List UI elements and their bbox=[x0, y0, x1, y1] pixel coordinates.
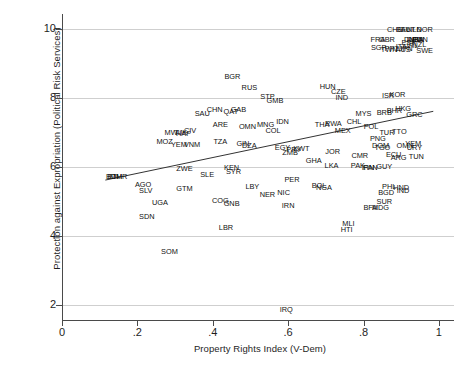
data-point-label: GTM bbox=[176, 186, 192, 193]
data-point-label: SLV bbox=[139, 187, 152, 194]
data-point-label: GMB bbox=[267, 97, 284, 104]
data-point-label: SYR bbox=[226, 168, 241, 175]
y-tick-label: 4 bbox=[34, 229, 56, 241]
data-point-label: CHL bbox=[347, 119, 362, 126]
data-point-label: NGA bbox=[316, 185, 332, 192]
data-point-label: POL bbox=[364, 124, 379, 131]
data-point-label: GUY bbox=[376, 163, 392, 170]
data-point-label: JOR bbox=[325, 148, 340, 155]
data-point-label: MDG bbox=[372, 204, 389, 211]
data-point-label: MYS bbox=[356, 110, 372, 117]
data-point-label: NOR bbox=[416, 26, 432, 33]
data-point-label: GHA bbox=[306, 157, 322, 164]
data-point-label: TZA bbox=[213, 139, 227, 146]
data-point-label: URY bbox=[407, 144, 422, 151]
data-point-label: SDN bbox=[139, 213, 154, 220]
data-point-label: MEX bbox=[335, 127, 351, 134]
y-axis-title: Protection against Expropriation (Politi… bbox=[51, 0, 62, 299]
x-tick-label: .2 bbox=[122, 326, 152, 338]
data-point-label: KOR bbox=[390, 91, 406, 98]
data-point-label: LKA bbox=[325, 163, 339, 170]
data-point-label: IRN bbox=[362, 165, 375, 172]
data-point-label: NER bbox=[260, 191, 275, 198]
data-point-label: GRC bbox=[406, 112, 422, 119]
y-tick-label: 6 bbox=[34, 160, 56, 172]
data-point-label: LBR bbox=[219, 224, 233, 231]
data-point-label: CHN bbox=[207, 106, 223, 113]
data-point-label: BDI bbox=[106, 173, 118, 180]
data-point-label: SOM bbox=[161, 249, 178, 256]
data-point-label: GNB bbox=[224, 200, 240, 207]
x-tick-label: 0 bbox=[47, 326, 77, 338]
data-point-label: PER bbox=[284, 176, 299, 183]
scatter-plot-figure: Protection against Expropriation (Politi… bbox=[0, 0, 475, 367]
data-point-label: HTI bbox=[341, 226, 353, 233]
data-point-label: HAF bbox=[176, 131, 191, 138]
data-point-label: IRQ bbox=[280, 306, 293, 313]
data-point-label: DZA bbox=[242, 142, 257, 149]
data-point-label: TTO bbox=[392, 128, 407, 135]
data-point-label: BGR bbox=[224, 73, 240, 80]
data-point-label: ZWE bbox=[176, 165, 192, 172]
x-tick-label: .4 bbox=[198, 326, 228, 338]
data-point-label: IND bbox=[397, 187, 410, 194]
data-point-label: IDN bbox=[276, 119, 289, 126]
data-point-label: IND bbox=[335, 94, 348, 101]
plot-area: 246810 0.2.4.6.81 BGRRUSHUNCZECHEBELAUTN… bbox=[62, 14, 454, 320]
x-tick-label: 1 bbox=[424, 326, 454, 338]
data-point-label: ARE bbox=[213, 121, 228, 128]
data-point-label: ESP bbox=[401, 39, 416, 46]
y-tick-label: 10 bbox=[34, 22, 56, 34]
data-point-label: BGD bbox=[378, 189, 394, 196]
data-point-label: GBR bbox=[379, 36, 395, 43]
data-point-label: VNM bbox=[184, 141, 200, 148]
x-tick-label: .8 bbox=[349, 326, 379, 338]
x-axis-title: Property Rights Index (V-Dem) bbox=[60, 343, 460, 354]
data-point-label: UGA bbox=[152, 199, 168, 206]
x-tick-label: .6 bbox=[273, 326, 303, 338]
data-point-label: SLE bbox=[200, 171, 214, 178]
y-tick-label: 8 bbox=[34, 91, 56, 103]
data-point-label: RUS bbox=[242, 84, 257, 91]
data-point-label: LBY bbox=[245, 183, 259, 190]
y-tick-label: 2 bbox=[34, 298, 56, 310]
data-point-label: CMR bbox=[351, 152, 368, 159]
data-point-label: IRN bbox=[282, 202, 295, 209]
data-point-label: ZMB bbox=[282, 149, 297, 156]
data-point-label: OMN bbox=[239, 123, 256, 130]
data-point-label: COL bbox=[266, 127, 281, 134]
data-point-label: ARG bbox=[391, 154, 407, 161]
data-point-labels: BGRRUSHUNCZECHEBELAUTNLDNORFRAGBRDNKFIND… bbox=[62, 14, 454, 320]
data-point-label: NIC bbox=[277, 189, 290, 196]
data-point-label: TUN bbox=[409, 153, 424, 160]
data-point-label: GAB bbox=[231, 106, 246, 113]
x-axis-line bbox=[62, 320, 454, 321]
